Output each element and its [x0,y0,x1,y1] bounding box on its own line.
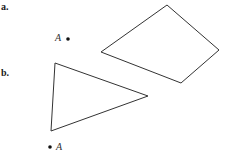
quadrilateral-shape [101,5,219,83]
triangle-shape [51,63,148,131]
geometry-canvas [0,0,236,151]
point-a-dot-part-a [66,37,70,41]
point-a-dot-part-b [48,145,52,149]
